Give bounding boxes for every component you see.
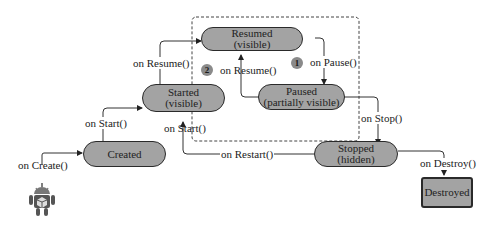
state-paused-sublabel: (partially visible) bbox=[263, 97, 339, 108]
state-paused: Paused (partially visible) bbox=[258, 84, 345, 110]
state-created: Created bbox=[83, 141, 166, 167]
state-started: Started (visible) bbox=[142, 84, 225, 112]
step-badge-pause: 1 bbox=[291, 57, 303, 69]
state-stopped: Stopped (hidden) bbox=[314, 141, 398, 167]
state-started-sublabel: (visible) bbox=[165, 98, 202, 109]
label-on-resume: on Resume() bbox=[133, 57, 190, 69]
android-icon bbox=[27, 183, 57, 217]
state-resumed: Resumed (visible) bbox=[201, 27, 303, 51]
state-destroyed: Destroyed bbox=[421, 177, 473, 208]
label-on-pause: on Pause() bbox=[310, 56, 357, 68]
state-destroyed-label: Destroyed bbox=[424, 187, 469, 198]
state-created-label: Created bbox=[107, 149, 141, 160]
label-on-resume-from-paused: on Resume() bbox=[220, 64, 277, 76]
label-on-start-created: on Start() bbox=[85, 117, 127, 129]
label-on-start-stopped: on Start() bbox=[164, 122, 206, 134]
step-badge-resume: 2 bbox=[201, 64, 213, 76]
label-on-restart: on Restart() bbox=[220, 148, 274, 160]
state-resumed-sublabel: (visible) bbox=[234, 39, 271, 50]
label-on-stop: on Stop() bbox=[361, 112, 402, 124]
label-on-create: on Create() bbox=[18, 159, 68, 171]
state-stopped-sublabel: (hidden) bbox=[337, 154, 374, 165]
label-on-destroy: on Destroy() bbox=[420, 157, 476, 169]
